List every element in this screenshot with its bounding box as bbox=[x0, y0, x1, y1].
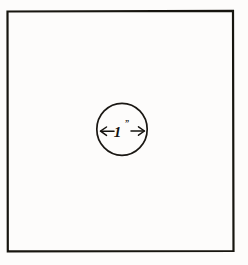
dimension-annotation: 1 ” bbox=[101, 118, 145, 140]
dimension-inch-mark-text: ” bbox=[125, 118, 130, 128]
technical-drawing-figure: 1 ” bbox=[0, 0, 248, 265]
drawing-canvas: 1 ” bbox=[0, 0, 248, 265]
dimension-value-text: 1 bbox=[114, 124, 122, 140]
